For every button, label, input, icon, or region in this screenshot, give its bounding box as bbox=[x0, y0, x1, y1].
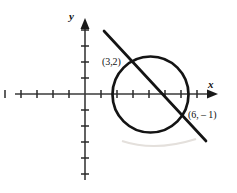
point-label-upper: (3,2) bbox=[102, 57, 121, 67]
y-axis-arrowhead bbox=[81, 18, 90, 29]
geometry-figure: y x (3,2) (6, – 1) bbox=[0, 0, 237, 193]
x-axis-arrowhead bbox=[207, 90, 218, 99]
secant-line bbox=[104, 31, 206, 141]
y-axis-label: y bbox=[69, 11, 74, 22]
scan-shadow-artifact bbox=[122, 139, 196, 146]
point-label-lower: (6, – 1) bbox=[188, 110, 216, 120]
plot-canvas bbox=[0, 0, 237, 193]
x-axis-label: x bbox=[208, 79, 214, 90]
